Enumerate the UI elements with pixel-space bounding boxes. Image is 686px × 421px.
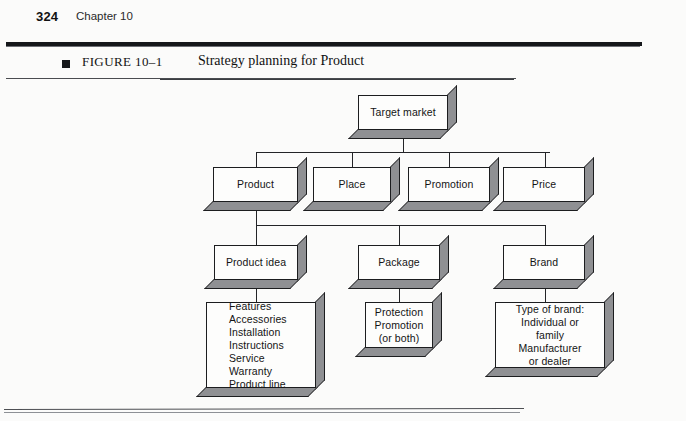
- connector-to-package: [399, 225, 400, 245]
- node-promotion: Promotion: [408, 167, 490, 202]
- box-bottom-shading: [348, 129, 450, 139]
- box-face: Package: [358, 245, 440, 280]
- box-bottom-shading: [355, 347, 435, 357]
- connector-to-price: [545, 152, 546, 167]
- box-face: Product: [213, 167, 298, 202]
- node-label: Place: [339, 178, 366, 191]
- box-face: Price: [503, 167, 585, 202]
- connector-to-product-idea: [256, 225, 257, 245]
- node-label: Price: [532, 178, 556, 191]
- connector-package-drop: [399, 289, 400, 302]
- box-side-shading: [297, 157, 307, 204]
- node-label: Package: [378, 256, 420, 269]
- node-label: Target market: [370, 106, 436, 119]
- node-product-features: FeaturesAccessoriesInstallationInstructi…: [206, 302, 316, 388]
- connector-to-promotion: [449, 152, 450, 167]
- node-package: Package: [358, 245, 440, 280]
- box-face: Product idea: [214, 245, 298, 280]
- box-side-shading: [432, 292, 442, 350]
- textbook-page: 324 Chapter 10 FIGURE 10–1 Strategy plan…: [0, 0, 686, 421]
- connector-level2-bus: [256, 152, 550, 153]
- node-label: Product: [237, 178, 274, 191]
- box-side-shading: [489, 157, 499, 204]
- box-bottom-shading: [303, 201, 393, 211]
- box-bottom-shading: [348, 279, 442, 289]
- box-side-shading: [390, 157, 400, 204]
- node-label: Product idea: [226, 256, 286, 269]
- box-bottom-shading: [204, 279, 300, 289]
- box-bottom-shading: [493, 201, 587, 211]
- node-price: Price: [503, 167, 585, 202]
- connector-to-product: [256, 152, 257, 167]
- connector-to-place: [352, 152, 353, 167]
- node-package-purpose: ProtectionPromotion(or both): [365, 302, 433, 348]
- box-face: Brand: [503, 245, 585, 280]
- connector-brand-drop: [545, 289, 546, 302]
- box-side-shading: [584, 235, 594, 282]
- box-face: FeaturesAccessoriesInstallationInstructi…: [206, 302, 316, 388]
- box-bottom-shading: [485, 367, 607, 377]
- node-target-market: Target market: [358, 95, 448, 130]
- node-label: Promotion: [425, 178, 474, 191]
- box-face: Place: [313, 167, 391, 202]
- box-side-shading: [439, 235, 449, 282]
- box-bottom-shading: [398, 201, 492, 211]
- connector-target-drop: [403, 139, 404, 152]
- node-label: Brand: [530, 256, 559, 269]
- node-brand: Brand: [503, 245, 585, 280]
- node-label: Type of brand:Individual orfamilyManufac…: [516, 303, 585, 368]
- node-place: Place: [313, 167, 391, 202]
- connector-to-brand: [545, 225, 546, 245]
- box-face: Promotion: [408, 167, 490, 202]
- node-label: ProtectionPromotion(or both): [375, 306, 424, 345]
- box-side-shading: [447, 85, 457, 132]
- node-brand-type: Type of brand:Individual orfamilyManufac…: [495, 302, 605, 368]
- connector-product-drop: [256, 211, 257, 225]
- node-product-idea: Product idea: [214, 245, 298, 280]
- node-label: FeaturesAccessoriesInstallationInstructi…: [207, 300, 315, 391]
- box-side-shading: [604, 292, 614, 370]
- connector-level3-bus: [256, 225, 545, 226]
- node-product: Product: [213, 167, 298, 202]
- box-side-shading: [297, 235, 307, 282]
- box-face: Type of brand:Individual orfamilyManufac…: [495, 302, 605, 368]
- box-side-shading: [315, 292, 325, 390]
- footer-rule-secondary: [4, 412, 520, 413]
- box-bottom-shading: [493, 279, 587, 289]
- box-face: Target market: [358, 95, 448, 130]
- box-face: ProtectionPromotion(or both): [365, 302, 433, 348]
- strategy-planning-diagram: Target market Product Place: [0, 0, 686, 421]
- box-bottom-shading: [203, 201, 300, 211]
- box-side-shading: [584, 157, 594, 204]
